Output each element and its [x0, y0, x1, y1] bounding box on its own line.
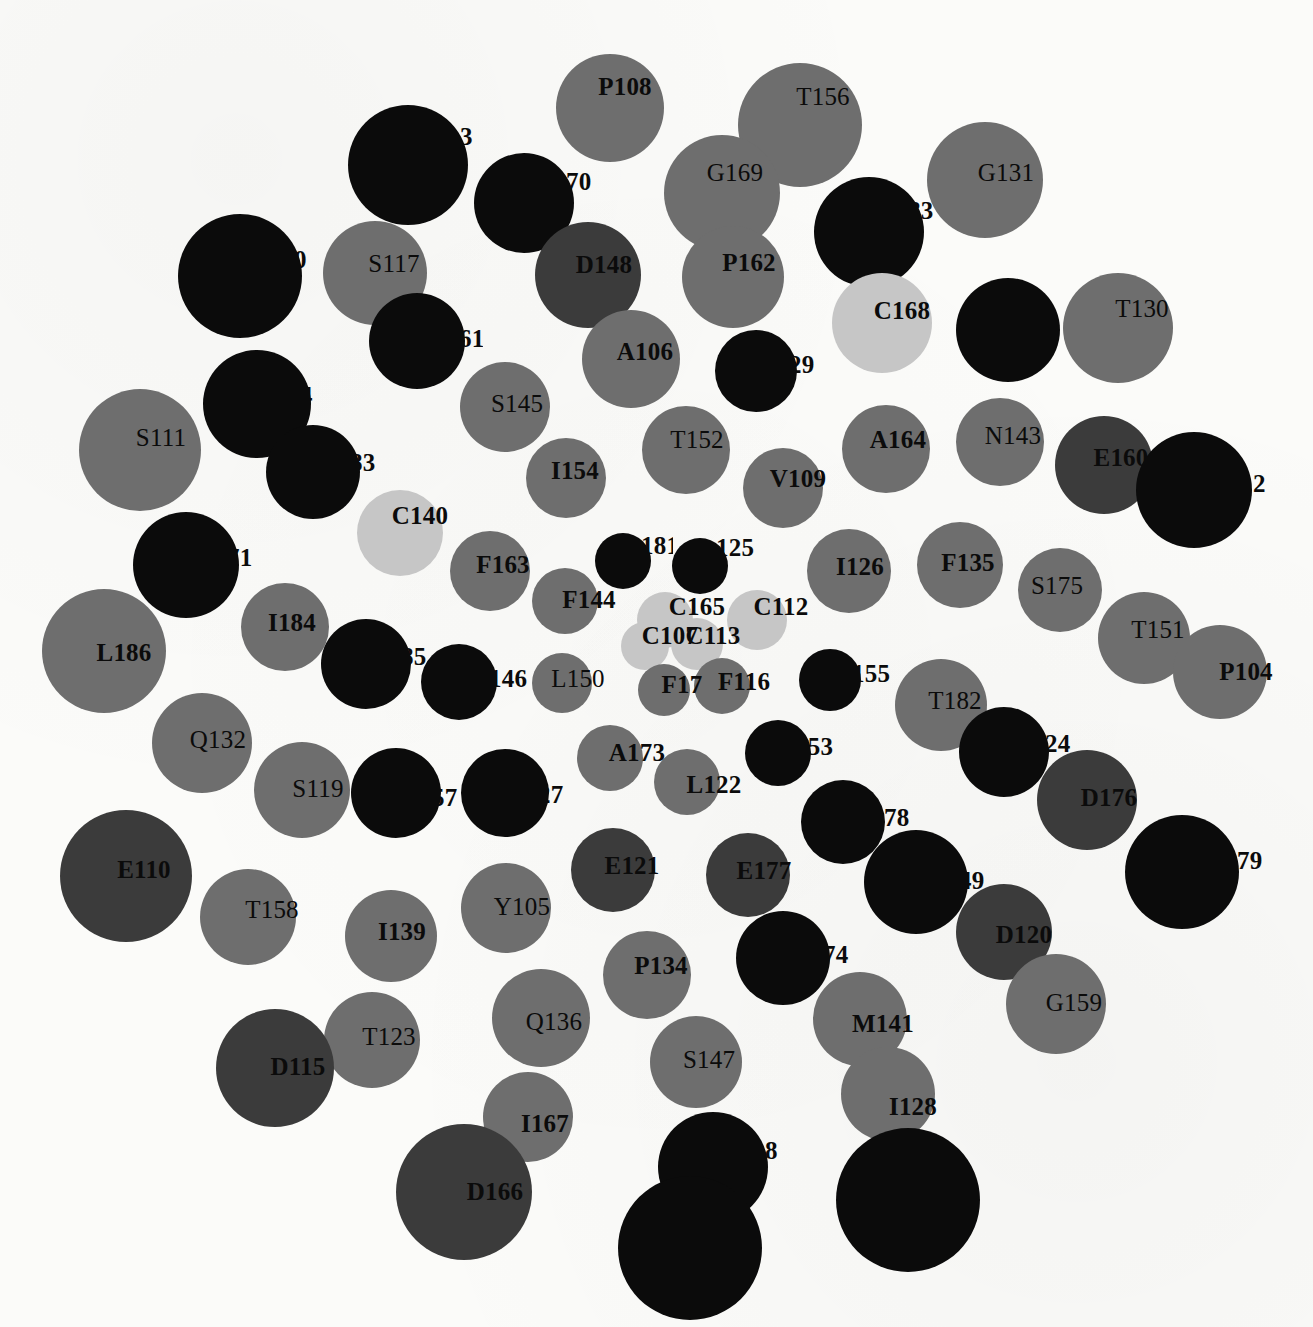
graph-node[interactable]	[1018, 548, 1102, 632]
graph-node[interactable]	[577, 725, 643, 791]
graph-node[interactable]	[715, 330, 797, 412]
graph-node[interactable]	[650, 1016, 742, 1108]
graph-node[interactable]	[743, 448, 823, 528]
graph-node[interactable]	[682, 226, 784, 328]
graph-node[interactable]	[152, 693, 252, 793]
graph-node[interactable]	[864, 830, 968, 934]
graph-node[interactable]	[1136, 432, 1252, 548]
graph-node[interactable]	[1006, 954, 1106, 1054]
graph-node[interactable]	[956, 398, 1044, 486]
graph-node[interactable]	[241, 583, 329, 671]
graph-node[interactable]	[1037, 750, 1137, 850]
graph-node[interactable]	[461, 749, 549, 837]
graph-node[interactable]	[348, 105, 468, 225]
graph-node[interactable]	[133, 512, 239, 618]
graph-node[interactable]	[571, 828, 655, 912]
graph-node[interactable]	[618, 1176, 762, 1320]
graph-node[interactable]	[1125, 815, 1239, 929]
graph-node[interactable]	[927, 122, 1043, 238]
graph-node[interactable]	[450, 531, 530, 611]
graph-node[interactable]	[321, 619, 411, 709]
node-label: 2	[1253, 470, 1267, 498]
graph-node[interactable]	[324, 992, 420, 1088]
graph-node[interactable]	[672, 538, 728, 594]
graph-node[interactable]	[706, 833, 790, 917]
graph-node[interactable]	[216, 1009, 334, 1127]
graph-node[interactable]	[917, 522, 1003, 608]
graph-node[interactable]	[582, 310, 680, 408]
graph-node[interactable]	[526, 438, 606, 518]
graph-node[interactable]	[357, 490, 443, 576]
node-label: 78	[884, 804, 910, 832]
graph-node[interactable]	[832, 273, 932, 373]
graph-node[interactable]	[603, 931, 691, 1019]
graph-node[interactable]	[842, 405, 930, 493]
graph-node[interactable]	[396, 1124, 532, 1260]
graph-node[interactable]	[807, 529, 891, 613]
graph-node[interactable]	[814, 177, 924, 287]
graph-node[interactable]	[1173, 625, 1267, 719]
graph-node[interactable]	[642, 406, 730, 494]
graph-node[interactable]	[841, 1047, 935, 1141]
graph-node[interactable]	[42, 589, 166, 713]
graph-node[interactable]	[79, 389, 201, 511]
graph-node[interactable]	[959, 707, 1049, 797]
graph-node[interactable]	[492, 969, 590, 1067]
graph-node[interactable]	[532, 568, 598, 634]
graph-node[interactable]	[727, 590, 787, 650]
graph-node[interactable]	[956, 278, 1060, 382]
graph-node[interactable]	[799, 649, 861, 711]
graph-node[interactable]	[1063, 273, 1173, 383]
graph-node[interactable]	[736, 911, 830, 1005]
graph-node[interactable]	[254, 742, 350, 838]
graph-node[interactable]	[178, 214, 302, 338]
graph-node[interactable]	[745, 720, 811, 786]
graph-node[interactable]	[460, 362, 550, 452]
graph-node[interactable]	[532, 653, 592, 713]
graph-node[interactable]	[461, 863, 551, 953]
graph-node[interactable]	[266, 425, 360, 519]
graph-node[interactable]	[60, 810, 192, 942]
graph-node[interactable]	[654, 749, 720, 815]
graph-node[interactable]	[836, 1128, 980, 1272]
graph-node[interactable]	[351, 748, 441, 838]
graph-node[interactable]	[638, 664, 690, 716]
graph-node[interactable]	[421, 644, 497, 720]
node-label: 79	[1237, 847, 1263, 875]
graph-node[interactable]	[345, 890, 437, 982]
graph-node[interactable]	[694, 658, 750, 714]
node-graph-canvas: P108T1563G169G13170830S117D148P162T130C1…	[0, 0, 1313, 1327]
graph-node[interactable]	[200, 869, 296, 965]
graph-node[interactable]	[595, 533, 651, 589]
graph-node[interactable]	[556, 54, 664, 162]
graph-node[interactable]	[369, 293, 465, 389]
graph-node[interactable]	[621, 622, 669, 670]
